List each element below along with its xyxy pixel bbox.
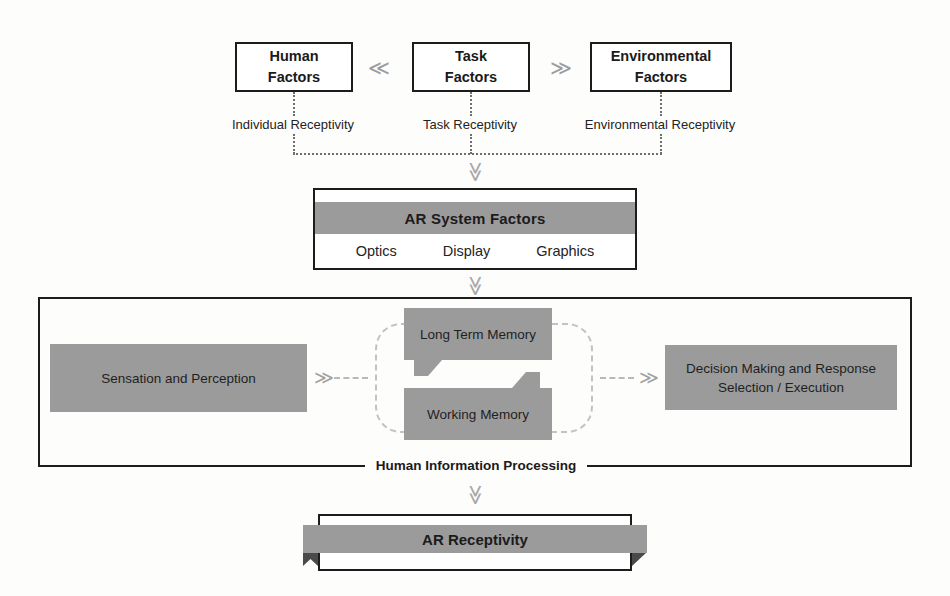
- ar-system-subitems: Optics Display Graphics: [315, 234, 635, 268]
- ribbon-fold-right-svg: [632, 552, 647, 566]
- ribbon-fold-right-shape: [632, 552, 647, 566]
- ribbon-fold-left-shape: [303, 552, 318, 566]
- flow-arrow-to-ar-system-icon: ≫: [463, 159, 489, 185]
- flow-arrow-to-receptivity-icon: ≫: [463, 482, 489, 508]
- factor-box-task[interactable]: Task Factors: [412, 42, 530, 92]
- dotted-stub-environmental: [660, 92, 662, 116]
- working-memory-up-arrow-icon: [512, 372, 540, 388]
- hip-dashed-connector-left: [334, 377, 368, 379]
- factor-box-environmental-line1: Environmental: [611, 46, 712, 67]
- factor-box-task-line2: Factors: [445, 67, 497, 88]
- block-decision-making[interactable]: Decision Making and Response Selection /…: [665, 345, 897, 410]
- ar-system-top-spacer: [315, 190, 635, 202]
- caption-task-receptivity: Task Receptivity: [390, 117, 550, 132]
- flow-arrow-to-hip-icon: ≫: [463, 273, 489, 299]
- dotted-stub-human: [293, 92, 295, 116]
- caption-environmental-receptivity: Environmental Receptivity: [550, 117, 770, 132]
- dotted-stub-task: [470, 92, 472, 116]
- chevron-right-icon: ≫: [550, 58, 572, 79]
- hip-dashed-connector-right: [600, 377, 634, 379]
- hip-arrow-right-icon: ≫: [639, 368, 659, 387]
- long-term-memory-down-arrow-icon: [414, 360, 442, 376]
- hip-arrow-left-icon: ≫: [314, 368, 334, 387]
- dotted-bracket-leg-center: [470, 134, 472, 154]
- ar-receptivity-label[interactable]: AR Receptivity: [303, 525, 647, 553]
- ar-system-subitem-optics[interactable]: Optics: [356, 243, 397, 259]
- diagram-canvas: Human Factors ≪ Task Factors ≫ Environme…: [0, 0, 950, 596]
- factor-box-task-line1: Task: [455, 46, 487, 67]
- factor-box-human-line1: Human: [269, 46, 318, 67]
- hip-frame-label: Human Information Processing: [365, 458, 587, 473]
- block-decision-making-line1: Decision Making and Response: [686, 359, 876, 378]
- ribbon-fold-left-svg: [303, 552, 318, 566]
- block-working-memory[interactable]: Working Memory: [404, 388, 552, 440]
- caption-individual-receptivity: Individual Receptivity: [193, 117, 393, 132]
- block-long-term-memory[interactable]: Long Term Memory: [404, 308, 552, 360]
- ar-system-factors-heading: AR System Factors: [315, 202, 635, 234]
- ar-system-subitem-graphics[interactable]: Graphics: [536, 243, 594, 259]
- ar-system-factors-card[interactable]: AR System Factors Optics Display Graphic…: [313, 188, 637, 270]
- factor-box-human-line2: Factors: [268, 67, 320, 88]
- factor-box-environmental[interactable]: Environmental Factors: [590, 42, 732, 92]
- chevron-left-icon: ≪: [368, 58, 390, 79]
- factor-box-environmental-line2: Factors: [635, 67, 687, 88]
- dotted-bracket-rail: [293, 153, 662, 155]
- ar-system-subitem-display[interactable]: Display: [443, 243, 491, 259]
- dotted-bracket-leg-right: [660, 134, 662, 154]
- block-decision-making-line2: Selection / Execution: [718, 378, 844, 397]
- block-sensation-and-perception[interactable]: Sensation and Perception: [50, 344, 307, 412]
- dotted-bracket-leg-left: [293, 134, 295, 154]
- factor-box-human[interactable]: Human Factors: [235, 42, 353, 92]
